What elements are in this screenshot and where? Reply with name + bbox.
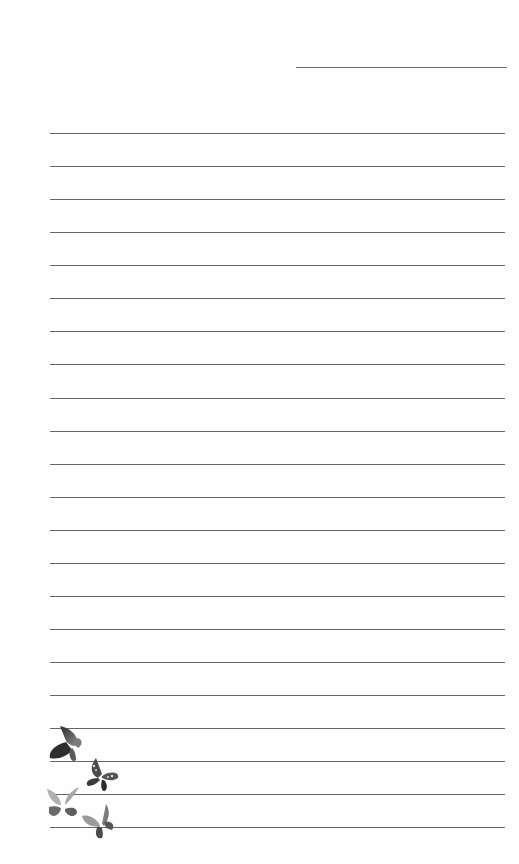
notepaper-page [0, 0, 519, 864]
ruled-line [50, 728, 505, 729]
ruled-line [50, 199, 505, 200]
butterfly-icon [82, 756, 122, 796]
ruled-line [50, 464, 505, 465]
ruled-line [50, 695, 505, 696]
ruled-line [50, 497, 505, 498]
ruled-line [50, 596, 505, 597]
ruled-line [50, 331, 505, 332]
ruled-line [50, 265, 505, 266]
butterfly-icon [80, 802, 120, 842]
ruled-line [50, 298, 505, 299]
butterfly-icon [45, 785, 81, 821]
ruled-line [50, 364, 505, 365]
ruled-line [50, 166, 505, 167]
header-write-line [296, 67, 507, 68]
ruled-line [50, 133, 505, 134]
ruled-line [50, 530, 505, 531]
ruled-line [50, 232, 505, 233]
ruled-line [50, 662, 505, 663]
ruled-line [50, 398, 505, 399]
ruled-line [50, 563, 505, 564]
ruled-line [50, 431, 505, 432]
ruled-line [50, 629, 505, 630]
